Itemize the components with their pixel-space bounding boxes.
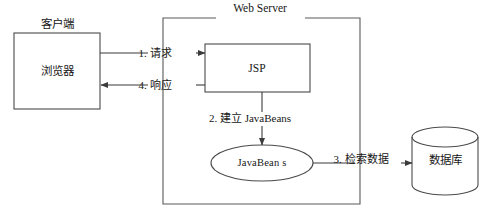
jsp-label: JSP — [248, 63, 265, 75]
diagram-graphics — [0, 0, 489, 221]
database-label: 数据库 — [429, 155, 462, 167]
javabeans-label: JavaBean s — [238, 158, 287, 169]
flow-1-label: 1. 请求 — [139, 48, 172, 59]
client-group-label: 客户端 — [41, 19, 74, 31]
flow-4-label: 4. 响应 — [139, 80, 172, 91]
flow-2-label: 2. 建立 JavaBeans — [209, 113, 291, 124]
diagram-canvas: Web Server 客户端 浏览器 JSP JavaBean s 数据库 1.… — [0, 0, 489, 221]
flow-3-label: 3. 检索数据 — [334, 154, 389, 165]
browser-label: 浏览器 — [41, 66, 74, 78]
web-server-title: Web Server — [233, 3, 287, 15]
